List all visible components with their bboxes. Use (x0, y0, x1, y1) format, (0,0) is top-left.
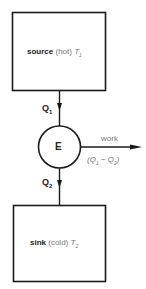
work-expr-minus: − (99, 155, 108, 164)
sink-temperature-symbol: T2 (71, 238, 79, 247)
heat-in-arrowhead-icon (57, 103, 62, 111)
heat-engine-diagram: source (hot) T1 Q1 E work (Q1 − Q2) Q2 s… (0, 0, 146, 289)
heat-in-subscript: 1 (49, 109, 52, 115)
heat-out-arrowhead-icon (57, 180, 62, 188)
heat-out-symbol: Q (42, 177, 49, 187)
work-expr-close: ) (117, 155, 120, 164)
sink-qualifier: (cold) (48, 238, 68, 247)
sink-label: sink (cold) T2 (30, 239, 78, 249)
heat-in-label: Q1 (42, 104, 52, 115)
source-temperature-symbol: T1 (74, 47, 82, 56)
work-arrowhead-icon (130, 145, 142, 150)
heat-out-label: Q2 (42, 178, 52, 189)
source-name: source (27, 47, 53, 56)
heat-in-symbol: Q (42, 103, 49, 113)
sink-temperature-subscript: 2 (75, 243, 78, 249)
source-temperature-subscript: 1 (79, 52, 82, 58)
sink-name: sink (30, 238, 46, 247)
source-label: source (hot) T1 (27, 48, 82, 58)
work-label: work (101, 135, 118, 143)
heat-out-subscript: 2 (49, 183, 52, 189)
source-qualifier: (hot) (55, 47, 71, 56)
engine-label: E (55, 142, 62, 152)
work-expression: (Q1 − Q2) (87, 156, 120, 166)
